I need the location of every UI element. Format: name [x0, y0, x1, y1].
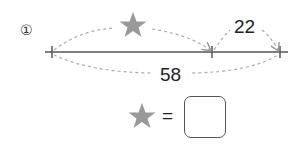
- dashed-arc-22-right: [262, 30, 278, 50]
- total-label: 58: [160, 64, 181, 85]
- dashed-arc-58-right: [192, 55, 278, 73]
- star-icon: [120, 12, 147, 37]
- dashed-arc-22-left: [214, 30, 230, 50]
- dashed-arc-star-right: [152, 29, 210, 50]
- part-label: 22: [234, 16, 255, 37]
- number-line-diagram: ① 22 58 =: [0, 0, 305, 146]
- star-icon: [129, 103, 156, 128]
- dashed-arc-58-left: [54, 55, 152, 73]
- equals-sign: =: [162, 105, 173, 126]
- dashed-arc-star-left: [54, 28, 115, 50]
- answer-box[interactable]: [184, 96, 226, 138]
- problem-number: ①: [20, 22, 33, 38]
